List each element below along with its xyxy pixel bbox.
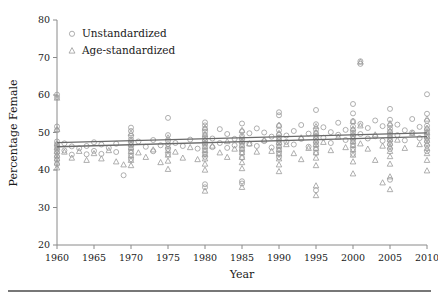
- data-point-triangle: [313, 183, 319, 188]
- data-point-circle: [351, 102, 356, 107]
- data-point-triangle: [165, 158, 171, 163]
- data-point-circle: [225, 132, 230, 137]
- data-point-triangle: [113, 159, 119, 164]
- data-point-triangle: [313, 163, 319, 168]
- data-point-circle: [291, 129, 296, 134]
- data-point-circle: [373, 118, 378, 123]
- y-tick-label: 60: [38, 89, 50, 100]
- x-tick-label: 1985: [230, 252, 254, 263]
- data-point-circle: [417, 124, 422, 129]
- data-point-circle: [99, 142, 104, 147]
- legend: UnstandardizedAge-standardized: [69, 27, 175, 56]
- data-point-triangle: [313, 155, 319, 160]
- data-point-triangle: [136, 150, 142, 155]
- data-point-triangle: [202, 161, 208, 166]
- data-point-circle: [388, 106, 393, 111]
- y-tick-label: 70: [38, 52, 50, 63]
- data-point-triangle: [380, 180, 386, 185]
- x-tick-label: 2010: [415, 252, 438, 263]
- legend-label: Unstandardized: [82, 27, 167, 39]
- data-point-triangle: [365, 146, 371, 151]
- legend-marker-triangle: [69, 48, 75, 54]
- y-tick-label: 80: [38, 14, 50, 25]
- data-point-triangle: [424, 157, 430, 162]
- y-tick-label: 40: [38, 164, 50, 175]
- data-point-triangle: [143, 154, 149, 159]
- x-tick-label: 1980: [193, 252, 217, 263]
- data-point-circle: [291, 142, 296, 147]
- x-tick-label: 2005: [378, 252, 402, 263]
- data-point-circle: [262, 130, 267, 135]
- data-point-triangle: [158, 160, 164, 165]
- data-point-triangle: [165, 166, 171, 171]
- data-point-triangle: [372, 157, 378, 162]
- legend-marker-circle: [69, 31, 74, 36]
- x-tick-label: 1965: [82, 252, 106, 263]
- series-age-standardized: [54, 59, 430, 198]
- x-tick-label: 1960: [45, 252, 69, 263]
- data-point-triangle: [187, 145, 193, 150]
- data-point-circle: [328, 130, 333, 135]
- data-point-triangle: [224, 139, 230, 144]
- data-point-triangle: [84, 157, 90, 162]
- data-point-triangle: [417, 142, 423, 147]
- data-point-circle: [217, 141, 222, 146]
- data-point-circle: [351, 111, 356, 116]
- data-point-triangle: [387, 154, 393, 159]
- data-point-triangle: [343, 145, 349, 150]
- y-tick-label: 50: [38, 127, 50, 138]
- data-point-circle: [388, 177, 393, 182]
- data-point-circle: [299, 123, 304, 128]
- data-point-circle: [314, 108, 319, 113]
- series-unstandardized: [55, 59, 430, 193]
- x-axis-title: Year: [229, 268, 255, 281]
- y-axis-title: Percentage Female: [7, 79, 20, 186]
- data-point-triangle: [121, 162, 127, 167]
- data-point-triangle: [350, 159, 356, 164]
- legend-label: Age-standardized: [81, 44, 176, 56]
- data-point-circle: [217, 127, 222, 132]
- x-tick-label: 1995: [304, 252, 328, 263]
- data-point-circle: [336, 120, 341, 125]
- data-point-triangle: [350, 171, 356, 176]
- data-point-triangle: [180, 155, 186, 160]
- data-point-circle: [365, 126, 370, 131]
- data-point-triangle: [276, 162, 282, 167]
- x-tick-label: 2000: [341, 252, 365, 263]
- scatter-plot-figure: 2030405060708019601965197019751980198519…: [0, 0, 438, 302]
- data-point-circle: [254, 126, 259, 131]
- data-point-circle: [166, 115, 171, 120]
- data-point-triangle: [387, 187, 393, 192]
- data-point-circle: [62, 141, 67, 146]
- y-tick-label: 30: [38, 202, 50, 213]
- data-point-triangle: [276, 169, 282, 174]
- data-point-circle: [247, 131, 252, 136]
- data-point-triangle: [173, 149, 179, 154]
- data-point-circle: [343, 127, 348, 132]
- data-point-triangle: [128, 163, 134, 168]
- data-point-circle: [254, 144, 259, 149]
- data-point-triangle: [298, 157, 304, 162]
- data-point-circle: [210, 145, 215, 150]
- data-point-circle: [328, 141, 333, 146]
- data-point-circle: [195, 146, 200, 151]
- data-point-triangle: [239, 166, 245, 171]
- x-tick-label: 1970: [119, 252, 143, 263]
- data-point-triangle: [224, 154, 230, 159]
- data-point-triangle: [387, 161, 393, 166]
- data-point-circle: [136, 139, 141, 144]
- data-point-triangle: [328, 148, 334, 153]
- data-point-triangle: [350, 118, 356, 123]
- data-point-triangle: [202, 167, 208, 172]
- data-point-triangle: [217, 150, 223, 155]
- data-point-circle: [402, 128, 407, 133]
- data-point-circle: [180, 144, 185, 149]
- data-points-layer: [54, 59, 430, 198]
- x-tick-label: 1990: [267, 252, 291, 263]
- data-point-circle: [395, 122, 400, 127]
- data-point-triangle: [380, 143, 386, 148]
- data-point-triangle: [254, 149, 260, 154]
- data-point-triangle: [195, 157, 201, 162]
- data-point-circle: [225, 145, 230, 150]
- data-point-circle: [277, 113, 282, 118]
